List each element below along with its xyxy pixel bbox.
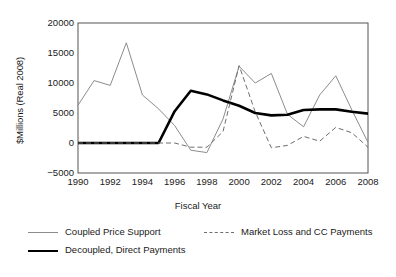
legend-item-coupled-price-support: Coupled Price Support: [28, 226, 161, 237]
legend-swatch-coupled-price-support: [28, 227, 58, 237]
legend-swatch-market-loss-cc-payments: [204, 227, 234, 237]
legend-label-market-loss-cc-payments: Market Loss and CC Payments: [241, 226, 372, 237]
series-line: [78, 43, 368, 153]
chart-legend: Coupled Price Support Market Loss and CC…: [0, 222, 396, 267]
legend-item-decoupled-direct-payments: Decoupled, Direct Payments: [28, 244, 185, 255]
plot-frame: [78, 23, 368, 173]
x-axis-title: Fiscal Year: [0, 200, 396, 211]
legend-swatch-decoupled-direct-payments: [28, 245, 58, 255]
series-line: [78, 91, 368, 143]
legend-label-decoupled-direct-payments: Decoupled, Direct Payments: [65, 244, 185, 255]
legend-item-market-loss-cc-payments: Market Loss and CC Payments: [204, 226, 372, 237]
series-line: [78, 66, 368, 148]
legend-label-coupled-price-support: Coupled Price Support: [65, 226, 161, 237]
chart-figure: $Millions (Real 2008) −50000500010000150…: [0, 0, 396, 277]
